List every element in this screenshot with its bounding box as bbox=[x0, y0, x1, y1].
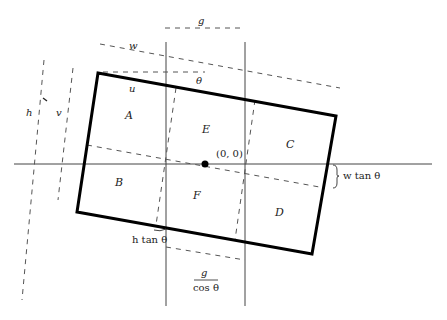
region-label-a: A bbox=[124, 109, 133, 122]
region-label-f: F bbox=[192, 189, 201, 202]
v-label: v bbox=[56, 107, 62, 118]
arrow-mark bbox=[43, 98, 47, 101]
g-label: g bbox=[198, 15, 204, 26]
h-tan-theta-label: h tan θ bbox=[132, 234, 167, 245]
region-label-e: E bbox=[201, 123, 210, 136]
origin-dot bbox=[202, 161, 209, 168]
rotated-rectangle-diagram: A B C D E F (0, 0) g w θ u h v w tan θ h… bbox=[0, 0, 447, 320]
h-label: h bbox=[26, 107, 32, 118]
w-label: w bbox=[129, 40, 138, 51]
u-label: u bbox=[129, 83, 135, 94]
h-dimension-line bbox=[22, 60, 44, 300]
g-cos-dimension-line bbox=[166, 247, 245, 260]
region-label-d: D bbox=[274, 206, 284, 219]
region-label-c: C bbox=[286, 138, 295, 151]
h-tan-theta-bracket bbox=[154, 229, 166, 231]
region-label-b: B bbox=[114, 176, 123, 189]
v-dimension-line bbox=[58, 68, 73, 200]
w-tan-theta-label: w tan θ bbox=[343, 170, 380, 181]
g-over-cos-numerator: g bbox=[201, 267, 207, 278]
theta-label: θ bbox=[196, 75, 202, 86]
origin-label: (0, 0) bbox=[216, 148, 243, 159]
w-tan-theta-bracket bbox=[333, 165, 339, 188]
g-over-cos-denominator: cos θ bbox=[193, 282, 219, 293]
